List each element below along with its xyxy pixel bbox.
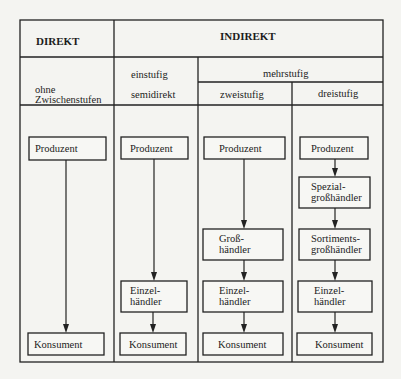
node-spezial-dreistufig-l2: großhändler bbox=[311, 192, 362, 203]
header-indirekt: INDIREKT bbox=[220, 31, 276, 42]
arrow-head-icon bbox=[332, 272, 338, 281]
header-zweistufig: zweistufig bbox=[220, 89, 264, 100]
node-einzel-dreistufig-l1: Einzel- bbox=[314, 285, 344, 296]
node-einzel-einstufig-l2: händler bbox=[130, 296, 162, 307]
node-spezial-dreistufig-l1: Spezial- bbox=[311, 181, 345, 192]
arrow-head-icon bbox=[241, 220, 247, 229]
arrow-head-icon bbox=[332, 168, 338, 177]
header-dreistufig: dreistufig bbox=[318, 88, 358, 99]
arrow-head-icon bbox=[63, 324, 69, 333]
header-zwischenstufen: Zwischenstufen bbox=[35, 94, 101, 105]
node-konsument-direkt: Konsument bbox=[34, 339, 82, 350]
node-produzent-zweistufig: Produzent bbox=[219, 143, 262, 154]
node-einzel-zweistufig-l2: händler bbox=[219, 296, 251, 307]
arrow-head-icon bbox=[151, 272, 157, 281]
node-gross-zweistufig-l1: Groß- bbox=[219, 233, 244, 244]
arrow-head-icon bbox=[150, 324, 156, 333]
header-direkt: DIREKT bbox=[36, 36, 79, 47]
node-einzel-dreistufig-l2: händler bbox=[314, 296, 346, 307]
header-semidirekt: semidirekt bbox=[131, 89, 175, 100]
arrow-head-icon bbox=[332, 220, 338, 229]
node-sortiments-dreistufig-l1: Sortiments- bbox=[311, 233, 360, 244]
node-einzel-einstufig-l1: Einzel- bbox=[130, 285, 160, 296]
node-gross-zweistufig-l2: händler bbox=[219, 244, 251, 255]
node-produzent-direkt: Produzent bbox=[35, 143, 78, 154]
node-konsument-zweistufig: Konsument bbox=[218, 339, 266, 350]
arrow-head-icon bbox=[241, 324, 247, 333]
node-konsument-dreistufig: Konsument bbox=[315, 339, 363, 350]
arrow-head-icon bbox=[241, 272, 247, 281]
node-produzent-dreistufig: Produzent bbox=[311, 143, 354, 154]
node-sortiments-dreistufig-l2: großhändler bbox=[311, 244, 362, 255]
header-mehrstufig: mehrstufig bbox=[263, 68, 309, 79]
header-einstufig: einstufig bbox=[131, 69, 168, 80]
node-produzent-einstufig: Produzent bbox=[130, 143, 173, 154]
arrow-head-icon bbox=[332, 324, 338, 333]
node-konsument-einstufig: Konsument bbox=[129, 339, 177, 350]
node-einzel-zweistufig-l1: Einzel- bbox=[219, 285, 249, 296]
